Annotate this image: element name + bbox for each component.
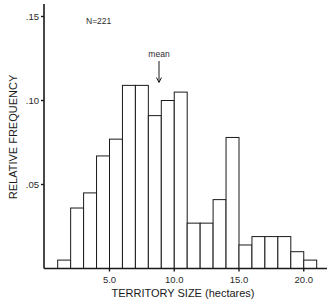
x-axis-ticks: 5.010.015.020.0 bbox=[103, 269, 313, 285]
y-axis-ticks: .05.10.15 bbox=[26, 11, 44, 190]
histogram-bar bbox=[226, 137, 239, 268]
histogram-bar bbox=[161, 101, 174, 269]
histogram-bar bbox=[187, 223, 200, 268]
histogram-bar bbox=[122, 85, 135, 268]
y-tick-label: .05 bbox=[26, 179, 39, 190]
histogram-bar bbox=[71, 208, 84, 268]
histogram-bar bbox=[304, 260, 317, 268]
histogram-bars bbox=[58, 85, 317, 268]
histogram-bar bbox=[239, 245, 252, 269]
y-tick-label: .15 bbox=[26, 11, 39, 22]
histogram-bar bbox=[84, 193, 97, 269]
histogram-bar bbox=[97, 156, 110, 269]
x-tick-label: 5.0 bbox=[103, 274, 116, 285]
y-tick-label: .10 bbox=[26, 95, 39, 106]
histogram-bar bbox=[265, 237, 278, 269]
x-tick-label: 15.0 bbox=[230, 274, 249, 285]
histogram-bar bbox=[291, 252, 304, 269]
histogram-bar bbox=[148, 116, 161, 269]
histogram-bar bbox=[200, 223, 213, 268]
sample-size-label: N=221 bbox=[86, 16, 112, 26]
y-axis-title: RELATIVE FREQUENCY bbox=[7, 74, 19, 199]
histogram-bar bbox=[252, 237, 265, 269]
histogram-bar bbox=[58, 260, 71, 268]
x-axis-title: TERRITORY SIZE (hectares) bbox=[111, 287, 254, 299]
histogram-bar bbox=[174, 92, 187, 268]
histogram-bar bbox=[278, 237, 291, 269]
mean-arrow-icon bbox=[157, 61, 162, 83]
histogram-bar bbox=[135, 85, 148, 268]
histogram-bar bbox=[213, 200, 226, 269]
mean-label: mean bbox=[148, 49, 170, 59]
histogram-chart: .05.10.15 5.010.015.020.0 N=221 mean TER… bbox=[0, 0, 334, 306]
x-tick-label: 20.0 bbox=[295, 274, 314, 285]
histogram-bar bbox=[110, 139, 123, 268]
x-tick-label: 10.0 bbox=[165, 274, 184, 285]
